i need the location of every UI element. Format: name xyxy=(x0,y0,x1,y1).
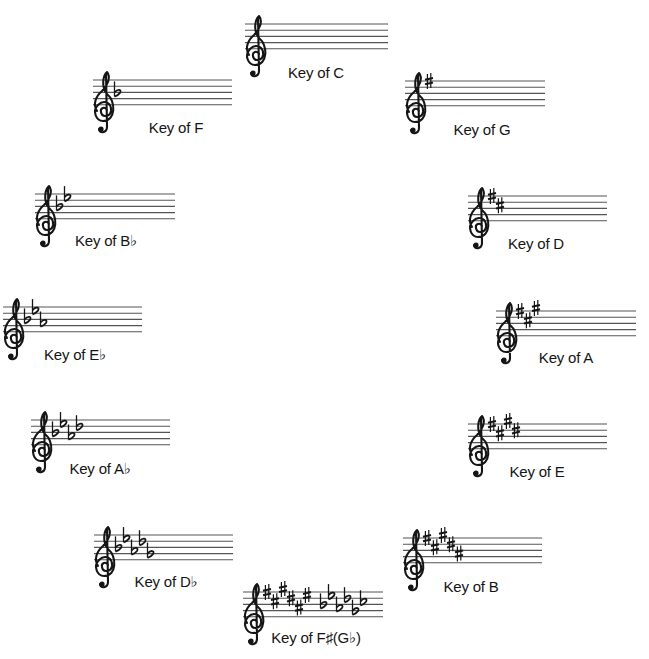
flat-icon xyxy=(115,81,121,96)
treble-clef-icon xyxy=(95,72,113,132)
staff-f xyxy=(0,0,649,659)
treble-clef-dot xyxy=(98,126,103,131)
key-label-f: Key of F xyxy=(149,119,203,136)
